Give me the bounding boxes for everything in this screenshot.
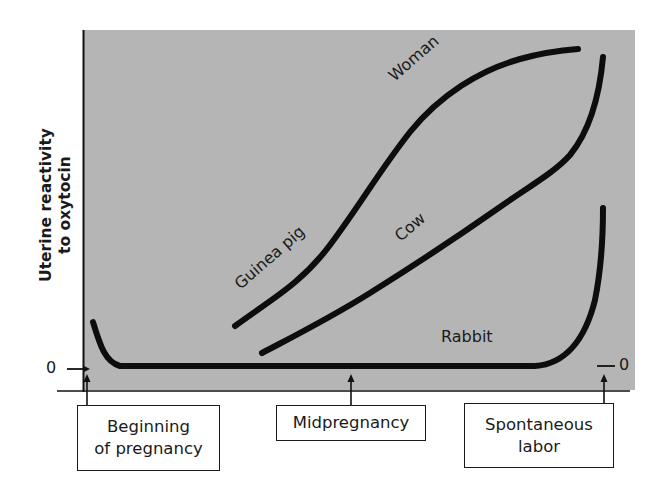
plot-background (84, 30, 635, 390)
box-midpregnancy-label: Midpregnancy (277, 412, 425, 434)
y-axis-label-line1: Uterine reactivity (37, 95, 56, 315)
zero-right-label: 0 (619, 355, 629, 374)
label-rabbit: Rabbit (441, 327, 493, 346)
marker-box-labor: Spontaneous labor (464, 403, 614, 468)
zero-left-label: 0 (46, 358, 56, 377)
box-labor-line2: labor (465, 436, 613, 458)
box-beginning-line2: of pregnancy (78, 438, 219, 460)
marker-box-midpregnancy: Midpregnancy (276, 405, 426, 441)
y-axis-label: Uterine reactivity to oxytocin (37, 95, 87, 315)
oxytocin-reactivity-figure: Uterine reactivity to oxytocin 0 0 Woman… (0, 0, 662, 494)
marker-box-beginning: Beginning of pregnancy (77, 405, 220, 471)
y-axis-label-line2: to oxytocin (56, 95, 75, 315)
box-beginning-line1: Beginning (78, 416, 219, 438)
box-labor-line1: Spontaneous (465, 414, 613, 436)
